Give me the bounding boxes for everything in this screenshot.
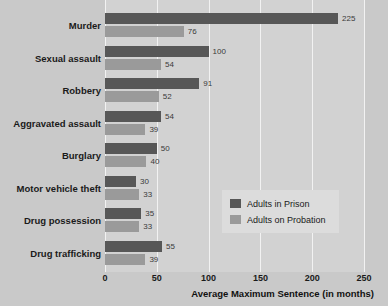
bar-value-label: 33 [143,221,152,232]
x-tick-label: 0 [102,273,107,283]
bar [105,13,338,24]
legend-label: Adults on Probation [247,215,326,225]
category-label: Drug trafficking [0,248,101,259]
bar [105,59,161,70]
category-label: Aggravated assault [0,118,101,129]
bar-value-label: 39 [149,254,158,265]
bar-value-label: 54 [165,59,174,70]
legend-swatch [230,215,241,224]
bar-chart: MurderSexual assaultRobberyAggravated as… [0,0,388,306]
category-label: Sexual assault [0,53,101,64]
legend-item: Adults in Prison [230,197,330,210]
category-label: Motor vehicle theft [0,183,101,194]
bar-value-label: 33 [143,189,152,200]
chart-legend: Adults in PrisonAdults on Probation [222,190,339,233]
x-tick-label: 200 [305,273,320,283]
bar-value-label: 50 [161,143,170,154]
bar [105,91,159,102]
bar [105,176,136,187]
bar [105,208,141,219]
bar-value-label: 35 [145,208,154,219]
category-axis-labels: MurderSexual assaultRobberyAggravated as… [0,0,101,272]
bar [105,26,184,37]
category-label: Robbery [0,85,101,96]
x-tick-label: 150 [253,273,268,283]
legend-swatch [230,199,241,208]
category-label: Drug possession [0,215,101,226]
x-axis-tick-labels: 050100150200250 [105,272,364,288]
bar [105,46,209,57]
bar-value-label: 100 [213,46,226,57]
bar-value-label: 30 [140,176,149,187]
bar-value-label: 54 [165,111,174,122]
bar [105,221,139,232]
x-tick-label: 250 [356,273,371,283]
bar-value-label: 52 [163,91,172,102]
gridline-250 [364,0,365,272]
bar-value-label: 225 [342,13,355,24]
bar [105,254,145,265]
bar [105,143,157,154]
legend-label: Adults in Prison [247,199,310,209]
bar [105,78,199,89]
x-tick-label: 100 [201,273,216,283]
category-label: Murder [0,20,101,31]
bar [105,241,162,252]
bar-value-label: 39 [149,124,158,135]
legend-item: Adults on Probation [230,213,330,226]
bar [105,156,146,167]
bar [105,189,139,200]
category-label: Burglary [0,150,101,161]
bar-value-label: 55 [166,241,175,252]
x-axis-title: Average Maximum Sentence (in months) [0,288,374,299]
x-tick-label: 50 [152,273,162,283]
bar-value-label: 91 [203,78,212,89]
bar-value-label: 76 [188,26,197,37]
bar [105,111,161,122]
bar [105,124,145,135]
bar-value-label: 40 [150,156,159,167]
